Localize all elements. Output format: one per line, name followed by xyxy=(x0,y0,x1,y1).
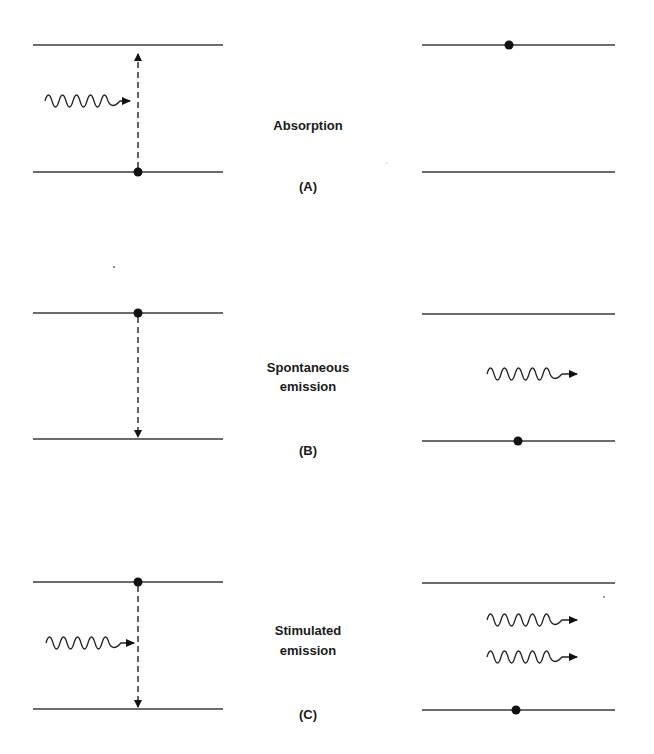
incoming-photon-wave-icon xyxy=(46,637,134,649)
emitted-photon-wave-icon xyxy=(487,368,577,380)
panel-c: Stimulated emission (C) xyxy=(33,578,615,723)
electron-dot xyxy=(134,168,143,177)
incoming-photon-wave-icon xyxy=(45,95,130,107)
scan-speck xyxy=(603,596,605,598)
panel-a-label: (A) xyxy=(299,179,317,194)
energy-level-diagram: Absorption (A) Spontaneous emission (B) xyxy=(0,0,654,754)
panel-a-title: Absorption xyxy=(273,118,342,133)
panel-b-title-line2: emission xyxy=(280,379,336,394)
panel-c-before xyxy=(33,578,223,710)
panel-a: Absorption (A) xyxy=(33,41,615,195)
electron-dot xyxy=(514,437,523,446)
panel-a-before xyxy=(33,45,223,177)
panel-b-label: (B) xyxy=(299,443,317,458)
panel-c-label: (C) xyxy=(299,707,317,722)
panel-c-title-line2: emission xyxy=(280,643,336,658)
scan-speck xyxy=(386,162,387,163)
electron-dot xyxy=(134,578,143,587)
stimulating-photon-wave-icon xyxy=(487,651,577,663)
panel-b-title-line1: Spontaneous xyxy=(267,360,349,375)
electron-dot xyxy=(505,41,514,50)
panel-a-after xyxy=(422,41,615,173)
electron-dot xyxy=(134,309,143,318)
scan-speck xyxy=(113,266,115,268)
panel-b: Spontaneous emission (B) xyxy=(33,309,615,459)
emitted-photon-wave-icon xyxy=(487,614,577,626)
panel-c-title-line1: Stimulated xyxy=(275,623,342,638)
panel-b-before xyxy=(33,309,223,440)
panel-c-after xyxy=(422,583,615,715)
electron-dot xyxy=(512,706,521,715)
panel-b-after xyxy=(422,314,615,446)
